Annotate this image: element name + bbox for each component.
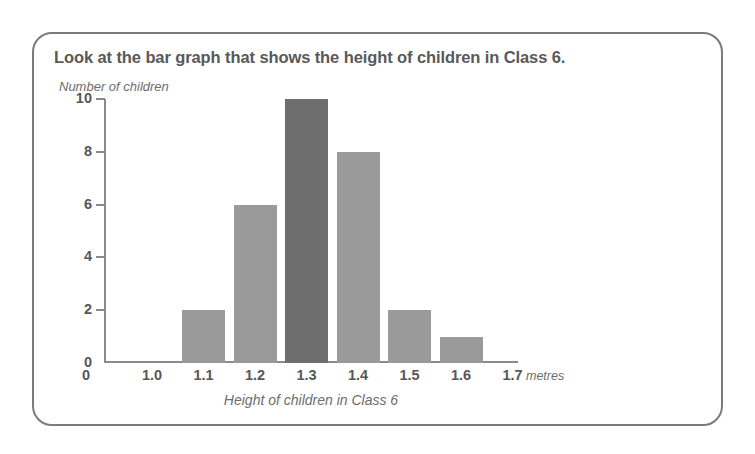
x-axis-title: Height of children in Class 6	[104, 392, 518, 408]
x-axis-label-1-1: 1.1	[178, 367, 230, 384]
bar-1-2	[234, 205, 277, 363]
page-root: Look at the bar graph that shows the hei…	[0, 0, 755, 454]
bar-1-6	[440, 337, 483, 363]
bar-1-5	[388, 310, 431, 363]
bar-1-3	[285, 99, 328, 363]
x-axis-label-1-0: 1.0	[126, 367, 178, 384]
bar-1-1	[182, 310, 225, 363]
y-axis-label: 10	[66, 91, 92, 106]
x-axis-label-1-3: 1.3	[281, 367, 333, 384]
x-axis-label-1-7: 1.7	[487, 367, 539, 384]
bar-series	[104, 99, 518, 363]
y-axis-label: 8	[66, 144, 92, 159]
question-card: Look at the bar graph that shows the hei…	[32, 32, 723, 426]
y-axis-label: 4	[66, 249, 92, 264]
x-axis-label-1-6: 1.6	[435, 367, 487, 384]
x-axis-labels: metres 01.01.11.21.31.41.51.61.7	[34, 367, 725, 391]
bar-1-4	[337, 152, 380, 363]
y-axis-label: 2	[66, 302, 92, 317]
x-axis-origin-label: 0	[60, 367, 112, 384]
x-axis-label-1-5: 1.5	[384, 367, 436, 384]
y-axis-label: 6	[66, 197, 92, 212]
x-axis-label-1-2: 1.2	[229, 367, 281, 384]
bar-chart: Number of children 2468100 metres 01.01.…	[34, 34, 725, 428]
x-axis-label-1-4: 1.4	[332, 367, 384, 384]
